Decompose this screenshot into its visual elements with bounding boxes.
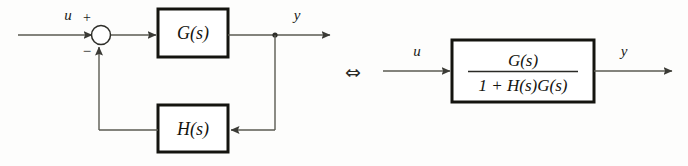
- transfer-denominator: 1 + H(s)G(s): [479, 76, 568, 95]
- output-label-left: y: [292, 7, 301, 23]
- forward-block-label: G(s): [177, 23, 209, 44]
- feedback-block-label: H(s): [176, 119, 209, 140]
- input-label-right: u: [413, 43, 421, 59]
- equivalence-symbol: ⇔: [345, 61, 361, 83]
- diagram-canvas: u + − G(s) y H(s) ⇔ u: [0, 0, 688, 166]
- block-diagram-figure: u + − G(s) y H(s) ⇔ u: [0, 0, 688, 166]
- summing-junction: [92, 26, 111, 45]
- plus-sign-label: +: [83, 10, 91, 25]
- output-label-right: y: [619, 43, 628, 59]
- minus-sign-label: −: [83, 43, 91, 59]
- input-label-left: u: [64, 7, 72, 23]
- transfer-numerator: G(s): [508, 51, 539, 70]
